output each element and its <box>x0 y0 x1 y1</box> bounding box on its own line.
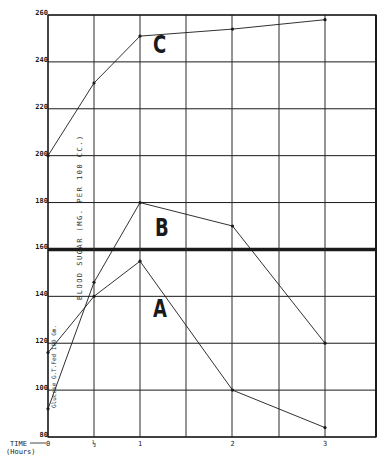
x-axis-label: TIME (Hours) <box>6 440 36 456</box>
data-point-a <box>231 389 234 392</box>
y-tick-label: 120 <box>8 337 48 345</box>
x-tick-label: 3 <box>318 440 332 448</box>
plot-frame <box>48 15 376 437</box>
x-axis-label-line2: (Hours) <box>6 448 36 456</box>
y-axis-label: BLOOD SUGAR (MG. PER 100 CC.) <box>76 134 84 300</box>
y-tick-label: 80 <box>8 431 48 439</box>
curve-label-a: A <box>153 297 167 321</box>
x-tick-label: 2 <box>226 440 240 448</box>
y-tick-label: 220 <box>8 103 48 111</box>
y-tick-label: 260 <box>8 9 48 17</box>
y-tick-label: 160 <box>8 243 48 251</box>
data-point-a <box>323 426 326 429</box>
glucose-annotation: Glucose G.T.Fed 100 Gm. <box>50 325 57 408</box>
y-tick-label: 100 <box>8 384 48 392</box>
data-point-c <box>138 35 141 38</box>
data-point-b <box>323 342 326 345</box>
data-point-b <box>138 201 141 204</box>
chart-canvas <box>0 0 392 463</box>
data-point-c <box>231 27 234 30</box>
y-tick-label: 200 <box>8 150 48 158</box>
data-point-a <box>138 260 141 263</box>
data-point-c <box>92 81 95 84</box>
curve-label-b: B <box>155 216 169 240</box>
curve-label-c: C <box>153 33 166 57</box>
x-tick-label: 1 <box>133 440 147 448</box>
x-axis-label-line1: TIME <box>6 440 36 448</box>
y-tick-label: 180 <box>8 197 48 205</box>
x-tick-label: 0 <box>41 440 55 448</box>
data-point-b <box>92 281 95 284</box>
data-point-b <box>231 224 234 227</box>
data-point-a <box>92 295 95 298</box>
y-tick-label: 240 <box>8 56 48 64</box>
x-tick-label: ½ <box>87 440 101 448</box>
data-point-c <box>323 18 326 21</box>
y-tick-label: 140 <box>8 290 48 298</box>
